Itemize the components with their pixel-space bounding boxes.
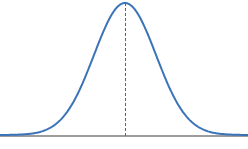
normal-distribution-chart [0, 0, 248, 149]
chart-background [0, 0, 248, 149]
chart-canvas [0, 0, 248, 149]
